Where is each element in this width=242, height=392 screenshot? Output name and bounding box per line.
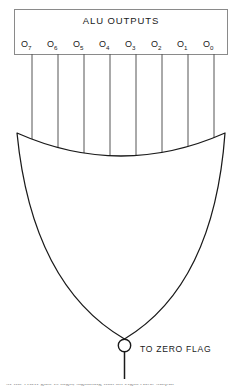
caption-text: of the NOR gate is high, signaling that … bbox=[6, 384, 174, 387]
inverting-bubble-icon bbox=[118, 339, 130, 351]
bit-label-o0: O0 bbox=[203, 39, 214, 51]
alu-outputs-title: ALU OUTPUTS bbox=[83, 15, 159, 26]
bit-label-o5: O5 bbox=[73, 39, 84, 51]
nor-gate-body bbox=[17, 133, 225, 339]
input-line-group bbox=[32, 54, 214, 160]
bit-label-o2: O2 bbox=[151, 39, 162, 51]
bit-label-o3: O3 bbox=[125, 39, 136, 51]
logic-diagram-svg: ALU OUTPUTS O7 O6 O5 O4 O3 O2 O1 O0 TO Z… bbox=[0, 0, 242, 392]
zero-flag-label: TO ZERO FLAG bbox=[140, 344, 211, 354]
bit-label-o7: O7 bbox=[21, 39, 32, 51]
bit-label-o4: O4 bbox=[99, 39, 110, 51]
bit-label-o6: O6 bbox=[47, 39, 58, 51]
figure-canvas: ALU OUTPUTS O7 O6 O5 O4 O3 O2 O1 O0 TO Z… bbox=[0, 0, 242, 392]
caption-strip: of the NOR gate is high, signaling that … bbox=[0, 384, 242, 392]
bit-label-o1: O1 bbox=[177, 39, 188, 51]
